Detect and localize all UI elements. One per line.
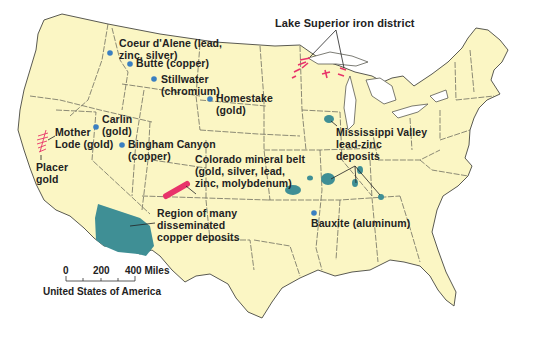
label-lake-superior: Lake Superior iron district [275, 17, 415, 29]
scale-tick-0: 0 [63, 265, 69, 276]
label-placer-gold: Placer gold [36, 161, 68, 185]
scale-tick-400: 400 Miles [125, 265, 169, 276]
scale-tick-200: 200 [93, 265, 110, 276]
label-copper-region: Region of many disseminated copper depos… [157, 207, 240, 243]
label-stillwater: Stillwater (chromium) [161, 73, 220, 97]
label-homestake: Homestake (gold) [216, 92, 273, 116]
map-caption: United States of America [43, 286, 161, 297]
label-colorado-mineral-belt: Colorado mineral belt (gold, silver, lea… [195, 153, 305, 189]
label-mother-lode: Mother Lode (gold) [55, 126, 113, 150]
label-mississippi-valley: Mississippi Valley lead-zinc deposits [336, 126, 427, 162]
label-bauxite: Bauxite (aluminum) [311, 217, 410, 229]
label-butte: Butte (copper) [136, 57, 209, 69]
scale-bar [66, 276, 135, 281]
